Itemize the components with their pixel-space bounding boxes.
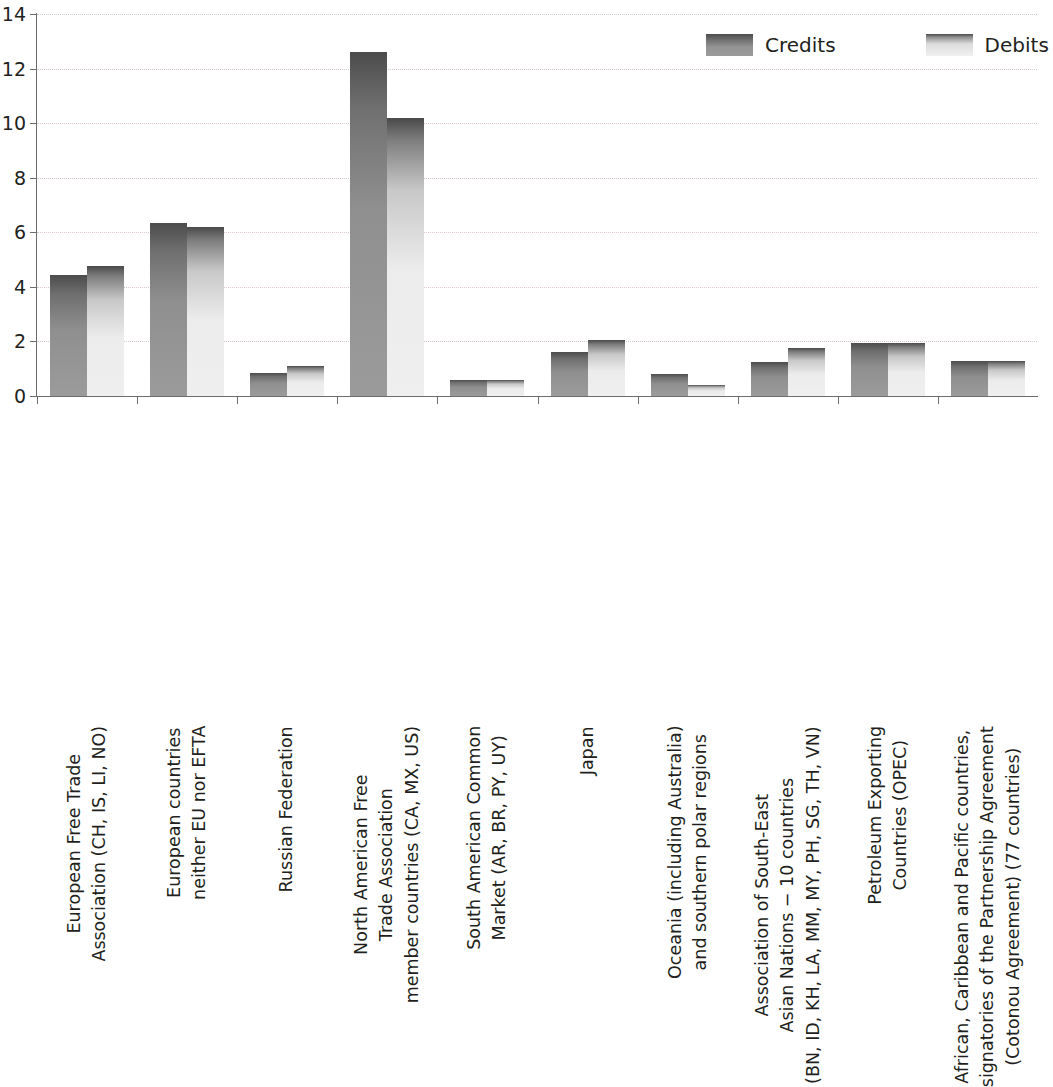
y-tick-label: 8 xyxy=(0,168,26,187)
gridline xyxy=(37,123,1037,124)
x-label-text: Russian Federation xyxy=(274,726,299,892)
bar-debits xyxy=(888,343,925,396)
y-tick-label: 2 xyxy=(0,332,26,351)
x-tick-mark xyxy=(237,397,238,404)
plot-area xyxy=(37,14,1037,396)
x-label-text: Association of South-East Asian Nations … xyxy=(750,726,826,1084)
x-label-text: European countries neither EU nor EFTA xyxy=(162,726,213,900)
gridline xyxy=(37,69,1037,70)
bar-debits xyxy=(287,366,324,396)
x-label-text: North American Free Trade Association me… xyxy=(349,726,425,1003)
y-tick-mark xyxy=(30,287,37,288)
bar-debits xyxy=(387,118,424,396)
x-tick-mark xyxy=(37,397,38,404)
bar-credits xyxy=(50,275,87,396)
x-tick-mark xyxy=(838,397,839,404)
x-tick-mark xyxy=(638,397,639,404)
bar-debits xyxy=(988,361,1025,396)
bar-credits xyxy=(951,361,988,396)
x-tick-mark xyxy=(738,397,739,404)
legend-label-credits: Credits xyxy=(765,33,836,57)
gridline xyxy=(37,178,1037,179)
x-label-text: African, Caribbean and Pacific countries… xyxy=(950,726,1026,1087)
y-tick-label: 10 xyxy=(0,114,26,133)
legend-item-debits: Debits xyxy=(926,33,1049,57)
credits-swatch-icon xyxy=(706,34,753,56)
y-tick-label: 4 xyxy=(0,277,26,296)
bar-debits xyxy=(187,227,224,396)
x-tick-mark xyxy=(538,397,539,404)
y-tick-mark xyxy=(30,341,37,342)
y-tick-mark xyxy=(30,396,37,397)
legend-label-debits: Debits xyxy=(985,33,1049,57)
x-label-9: African, Caribbean and Pacific countries… xyxy=(828,406,1053,726)
bar-debits xyxy=(588,340,625,396)
bar-credits xyxy=(250,373,287,396)
y-tick-label: 14 xyxy=(0,5,26,24)
y-tick-label: 6 xyxy=(0,223,26,242)
bar-credits xyxy=(651,374,688,396)
x-tick-mark xyxy=(938,397,939,404)
y-tick-mark xyxy=(30,123,37,124)
y-tick-mark xyxy=(30,14,37,15)
bar-credits xyxy=(851,343,888,396)
x-label-text: Petroleum Exporting Countries (OPEC) xyxy=(863,726,914,905)
x-label-text: European Free Trade Association (CH, IS,… xyxy=(62,726,113,962)
legend-item-credits: Credits xyxy=(706,33,836,57)
bar-debits xyxy=(788,348,825,396)
y-tick-mark xyxy=(30,232,37,233)
chart-legend: Credits Debits xyxy=(706,33,1049,57)
bar-debits xyxy=(487,380,524,396)
y-axis-line xyxy=(36,13,37,397)
x-label-text: Oceania (including Australia) and southe… xyxy=(662,726,713,979)
bar-debits xyxy=(688,385,725,396)
debits-swatch-icon xyxy=(926,34,973,56)
bar-credits xyxy=(450,380,487,396)
gridline xyxy=(37,14,1037,15)
x-label-text: Japan xyxy=(575,726,600,775)
y-tick-label: 0 xyxy=(0,387,26,406)
bar-credits xyxy=(751,362,788,396)
x-label-text: South American Common Market (AR, BR, PY… xyxy=(462,726,513,950)
bar-credits xyxy=(350,52,387,396)
bar-credits xyxy=(150,223,187,396)
bar-credits xyxy=(551,352,588,396)
y-tick-label: 12 xyxy=(0,59,26,78)
y-tick-mark xyxy=(30,178,37,179)
x-tick-mark xyxy=(437,397,438,404)
x-tick-mark xyxy=(337,397,338,404)
x-tick-mark xyxy=(137,397,138,404)
y-tick-mark xyxy=(30,69,37,70)
bar-debits xyxy=(87,266,124,396)
